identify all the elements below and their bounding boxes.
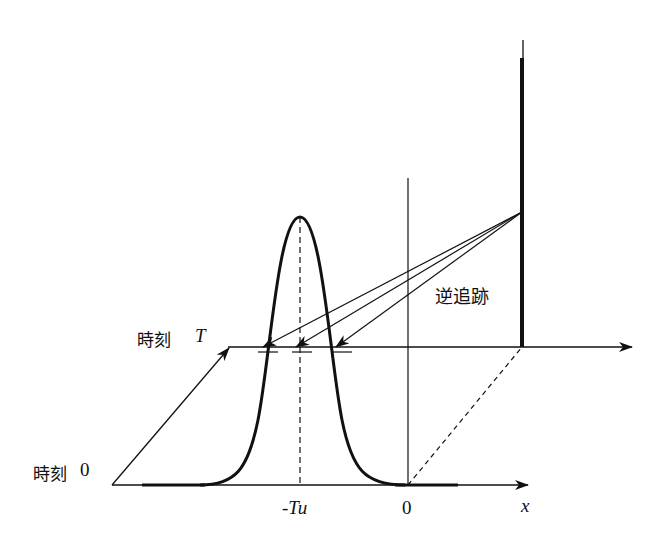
x-axis-label: x [521, 495, 529, 517]
time-0-label-prefix: 時刻 [33, 460, 67, 485]
time-T-symbol: T [195, 325, 206, 347]
diagram-canvas [0, 0, 665, 540]
backtrace-rays [263, 212, 522, 347]
dashed-origin-to-bar [408, 347, 522, 485]
time-0-symbol: 0 [80, 459, 90, 481]
origin-label: 0 [402, 497, 412, 519]
time-T-label-prefix: 時刻 [137, 326, 171, 351]
backtrace-label: 逆追跡 [435, 282, 489, 308]
peak-position-label: -Tu [282, 497, 307, 519]
gaussian-curve [200, 217, 405, 485]
time-axis [112, 348, 229, 485]
